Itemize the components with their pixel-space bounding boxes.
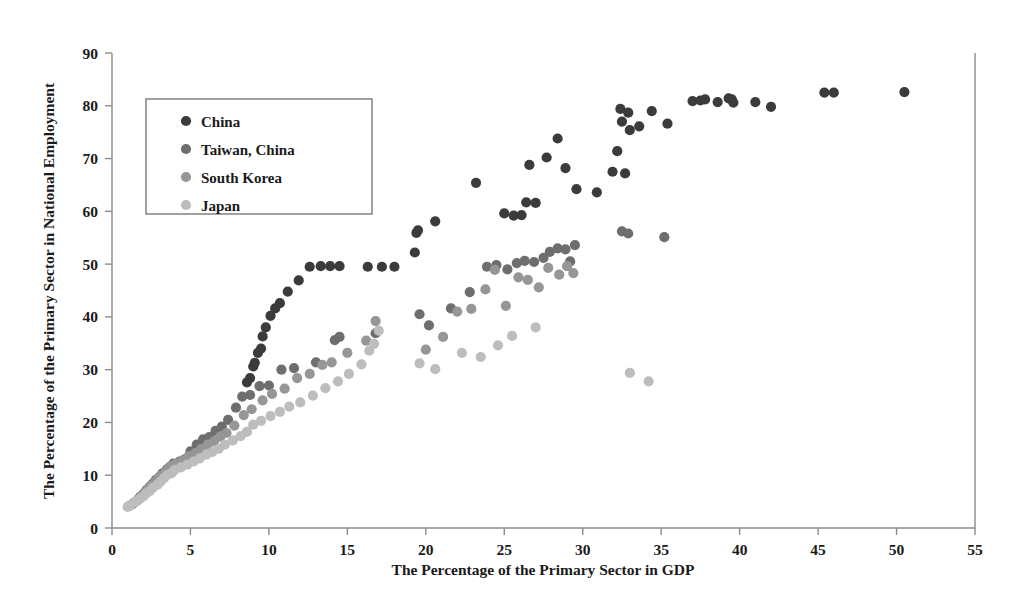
data-point xyxy=(342,348,352,358)
x-tick-label: 5 xyxy=(187,541,195,558)
legend-marker xyxy=(181,144,191,154)
data-point xyxy=(502,264,512,274)
x-axis-tick-labels: 0510152025303540455055 xyxy=(108,541,983,558)
legend-label: Taiwan, China xyxy=(201,142,295,158)
data-point xyxy=(256,416,266,426)
x-tick-label: 55 xyxy=(967,541,983,558)
data-point xyxy=(647,106,657,116)
data-point xyxy=(819,87,829,97)
data-point xyxy=(560,163,570,173)
data-point xyxy=(430,216,440,226)
data-point xyxy=(261,322,271,332)
data-point xyxy=(829,87,839,97)
data-point xyxy=(316,261,326,271)
x-axis-title: The Percentage of the Primary Sector in … xyxy=(392,561,695,578)
data-point xyxy=(625,368,635,378)
data-point xyxy=(524,160,534,170)
data-point xyxy=(612,146,622,156)
data-point xyxy=(258,395,268,405)
data-point xyxy=(513,272,523,282)
data-point xyxy=(507,331,517,341)
x-tick-label: 15 xyxy=(340,541,356,558)
data-point xyxy=(229,421,239,431)
data-point xyxy=(465,287,475,297)
legend-label: South Korea xyxy=(201,170,282,186)
data-point xyxy=(424,320,434,330)
x-tick-label: 25 xyxy=(497,541,513,558)
data-point xyxy=(254,381,264,391)
data-point xyxy=(283,286,293,296)
data-point xyxy=(553,133,563,143)
data-point xyxy=(413,225,423,235)
y-tick-label: 60 xyxy=(83,203,99,220)
series-south-korea xyxy=(124,261,578,511)
x-tick-label: 10 xyxy=(261,541,277,558)
data-point xyxy=(625,125,635,135)
legend-label: Japan xyxy=(201,198,241,214)
data-point xyxy=(377,262,387,272)
data-point xyxy=(305,262,315,272)
data-point xyxy=(713,97,723,107)
data-point xyxy=(452,307,462,317)
data-point xyxy=(543,263,553,273)
y-tick-label: 40 xyxy=(83,308,99,325)
data-point xyxy=(280,384,290,394)
data-point xyxy=(289,363,299,373)
data-point xyxy=(560,244,570,254)
data-point xyxy=(700,94,710,104)
data-point xyxy=(476,352,486,362)
data-point xyxy=(471,178,481,188)
data-point xyxy=(634,121,644,131)
data-point xyxy=(899,87,909,97)
data-point xyxy=(308,390,318,400)
x-tick-label: 0 xyxy=(108,541,116,558)
legend-marker xyxy=(181,116,191,126)
data-point xyxy=(295,397,305,407)
data-point xyxy=(623,228,633,238)
x-tick-label: 50 xyxy=(889,541,905,558)
data-point xyxy=(267,389,277,399)
data-point xyxy=(334,261,344,271)
x-tick-label: 40 xyxy=(732,541,748,558)
data-point xyxy=(501,301,511,311)
data-point xyxy=(623,108,633,118)
data-point xyxy=(333,376,343,386)
data-point xyxy=(325,261,335,271)
data-point xyxy=(305,369,315,379)
data-point xyxy=(245,373,255,383)
data-point xyxy=(570,240,580,250)
data-point xyxy=(523,275,533,285)
data-point xyxy=(520,256,530,266)
data-point xyxy=(231,403,241,413)
data-point xyxy=(371,316,381,326)
y-axis-tick-labels: 0102030405060708090 xyxy=(83,45,99,537)
y-tick-label: 10 xyxy=(83,467,99,484)
data-point xyxy=(250,358,260,368)
data-point xyxy=(529,257,539,267)
scatter-chart: 0510152025303540455055 01020304050607080… xyxy=(0,0,1026,602)
data-point xyxy=(480,284,490,294)
data-point xyxy=(466,304,476,314)
data-point xyxy=(317,360,327,370)
data-point xyxy=(430,364,440,374)
data-point xyxy=(493,340,503,350)
data-point xyxy=(607,167,617,177)
data-point xyxy=(292,373,302,383)
data-point xyxy=(334,332,344,342)
data-point xyxy=(276,365,286,375)
x-tick-label: 45 xyxy=(810,541,826,558)
legend-marker xyxy=(181,200,191,210)
data-point xyxy=(363,262,373,272)
data-point xyxy=(284,402,294,412)
data-point xyxy=(568,268,578,278)
y-tick-label: 0 xyxy=(90,520,98,537)
data-point xyxy=(327,357,337,367)
data-point xyxy=(414,358,424,368)
data-point xyxy=(659,232,669,242)
data-point xyxy=(571,184,581,194)
data-point xyxy=(662,119,672,129)
x-tick-label: 20 xyxy=(418,541,434,558)
data-point xyxy=(414,309,424,319)
y-tick-label: 30 xyxy=(83,361,99,378)
data-point xyxy=(617,117,627,127)
